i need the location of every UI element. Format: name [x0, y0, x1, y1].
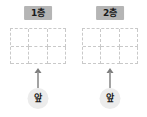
grid-cell[interactable] — [83, 29, 101, 47]
floor-panel-1: 1층 앞 — [4, 0, 72, 117]
grid-cell[interactable] — [29, 29, 47, 47]
front-direction-badge-1: 앞 — [28, 88, 49, 109]
grid-cell[interactable] — [83, 47, 101, 65]
arrow-up-icon — [106, 68, 115, 88]
grid-cell[interactable] — [101, 29, 119, 47]
grid-cell[interactable] — [48, 47, 66, 65]
floor-plan-diagram: 1층 앞 2층 — [0, 0, 147, 117]
grid-cell[interactable] — [120, 47, 138, 65]
grid-cell[interactable] — [11, 29, 29, 47]
grid-cell[interactable] — [120, 29, 138, 47]
grid-cell[interactable] — [29, 47, 47, 65]
grid-cell[interactable] — [48, 29, 66, 47]
seat-grid-1 — [10, 28, 66, 64]
arrow-up-icon — [34, 68, 43, 88]
floor-title-1: 1층 — [24, 6, 52, 20]
seat-grid-2 — [82, 28, 138, 64]
front-direction-badge-2: 앞 — [100, 88, 121, 109]
floor-panel-2: 2층 앞 — [76, 0, 144, 117]
grid-cell[interactable] — [11, 47, 29, 65]
floor-title-2: 2층 — [96, 6, 124, 20]
grid-cell[interactable] — [101, 47, 119, 65]
